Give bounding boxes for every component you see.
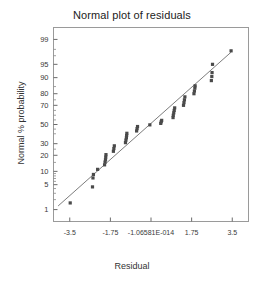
y-tick-label: 80 — [40, 89, 48, 98]
x-axis-label: Residual — [0, 261, 264, 271]
x-tick-label: 1.75 — [185, 229, 199, 236]
x-tick-label: -3.5 — [64, 229, 76, 236]
data-point-marker — [113, 144, 116, 147]
data-point-marker — [183, 95, 186, 98]
data-point-marker — [210, 79, 213, 82]
data-point-marker — [69, 201, 72, 204]
data-point-marker — [104, 153, 107, 156]
data-point-marker — [210, 71, 213, 74]
data-point-marker — [183, 98, 186, 101]
normal-probability-plot: Normal plot of residuals Normal % probab… — [0, 0, 264, 287]
data-point-marker — [173, 106, 176, 109]
data-point-marker — [210, 75, 213, 78]
data-point-marker — [96, 168, 99, 171]
data-point-marker — [91, 185, 94, 188]
y-tick-label: 70 — [40, 101, 48, 110]
x-tick-label: 3.5 — [227, 229, 237, 236]
x-tick-label: -1.75 — [102, 229, 118, 236]
y-tick-label: 95 — [40, 60, 48, 69]
y-tick-label: 99 — [40, 35, 48, 44]
y-tick-label: 20 — [40, 151, 48, 160]
plot-canvas: 15102030507080909599 -3.5-1.75-1.06581E-… — [0, 0, 264, 287]
x-tick-label: -1.06581E-014 — [128, 229, 174, 236]
data-point-marker — [92, 173, 95, 176]
y-tick-label: 30 — [40, 139, 48, 148]
data-point-marker — [125, 132, 128, 135]
y-tick-label: 90 — [40, 73, 48, 82]
data-point-marker — [182, 101, 185, 104]
y-tick-label: 5 — [44, 180, 48, 189]
y-tick-label: 50 — [40, 120, 48, 129]
data-point-marker — [193, 89, 196, 92]
y-tick-label: 10 — [40, 167, 48, 176]
data-point-marker — [229, 49, 232, 52]
y-tick-label: 1 — [44, 205, 48, 214]
data-point-marker — [112, 147, 115, 150]
data-point-marker — [148, 123, 151, 126]
data-point-marker — [160, 119, 163, 122]
data-point-marker — [136, 125, 139, 128]
data-point-marker — [194, 84, 197, 87]
data-point-marker — [211, 63, 214, 66]
data-point-marker — [103, 163, 106, 166]
data-point-marker — [91, 176, 94, 179]
